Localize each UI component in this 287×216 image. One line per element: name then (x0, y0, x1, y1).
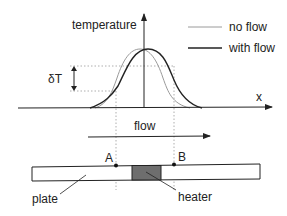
y-axis-label: temperature (72, 18, 137, 32)
flow-arrow (88, 136, 210, 137)
legend-with-flow-label: with flow (228, 41, 275, 55)
no-flow-curve (95, 49, 190, 108)
point-b-label: B (178, 150, 186, 164)
x-axis (18, 107, 272, 108)
flow-label: flow (134, 119, 156, 133)
point-b (172, 163, 176, 167)
delta-t-label: δT (48, 72, 63, 86)
heater-label: heater (178, 190, 212, 204)
x-axis-label: x (256, 90, 262, 104)
thermal-flow-diagram: δT temperature x no flow with flow flow … (0, 0, 287, 216)
legend: no flow with flow (188, 20, 275, 55)
delta-t-arrow (71, 66, 77, 91)
with-flow-curve (90, 49, 202, 108)
point-a (114, 164, 118, 168)
point-a-label: A (105, 151, 113, 165)
legend-no-flow-label: no flow (229, 20, 267, 34)
plate-label: plate (32, 192, 58, 206)
